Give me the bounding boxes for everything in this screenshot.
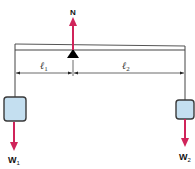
beam: [15, 44, 185, 50]
weight1-arrow: [10, 122, 18, 151]
arm2-label: ℓ2: [122, 60, 130, 73]
weight2-label: W2: [179, 152, 192, 163]
lever-diagram: N ℓ1 ℓ2 W1 W2: [0, 0, 195, 169]
normal-force-label: N: [70, 8, 76, 17]
weight1-box: [4, 97, 26, 121]
dimension-line: [16, 72, 184, 75]
weight1-label: W1: [8, 155, 21, 166]
weight2-box: [176, 100, 194, 119]
weight2-arrow: [181, 119, 189, 147]
arm1-label: ℓ1: [40, 60, 48, 73]
